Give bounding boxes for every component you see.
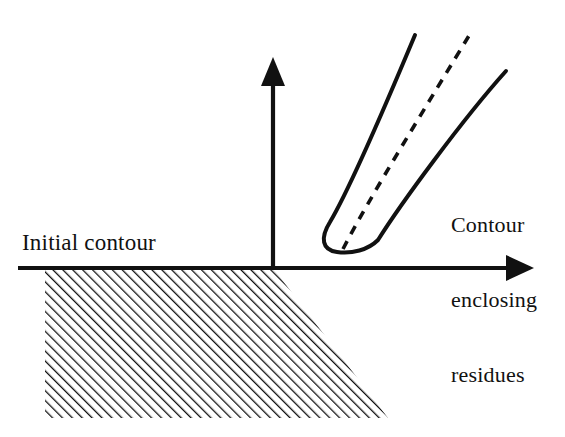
- figure-canvas: Initial contour Contour enclosing residu…: [0, 0, 565, 437]
- initial-contour-region: [45, 268, 388, 418]
- label-initial-contour: Initial contour: [22, 230, 156, 255]
- label-contour-line-1: Contour: [451, 212, 537, 237]
- label-contour-line-3: residues: [451, 362, 537, 387]
- hatch-fill: [45, 268, 388, 418]
- label-contour-line-2: enclosing: [451, 287, 537, 312]
- label-contour-enclosing-residues: Contour enclosing residues: [451, 162, 537, 437]
- vertical-axis-arrowhead-icon: [261, 57, 285, 86]
- vertical-axis: [261, 57, 285, 269]
